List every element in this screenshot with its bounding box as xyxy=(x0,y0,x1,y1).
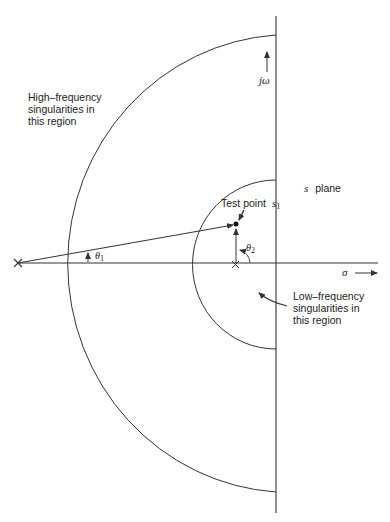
theta2-label: θ2 xyxy=(246,242,255,255)
s-symbol: s xyxy=(304,182,308,194)
low-frequency-pointer-arrow xyxy=(259,293,287,306)
vector-far-pole-to-test-point xyxy=(18,225,233,263)
high-frequency-label: High–frequency singularities in this reg… xyxy=(28,91,102,127)
test-point-dot xyxy=(234,222,239,227)
test-point-symbol: s1 xyxy=(272,197,280,209)
sigma-label: σ xyxy=(342,266,347,278)
low-frequency-line-2: singularities in xyxy=(293,302,364,314)
low-frequency-label: Low–frequency singularities in this regi… xyxy=(293,290,364,326)
high-frequency-line-1: High–frequency xyxy=(28,91,102,103)
plane-text: plane xyxy=(315,182,341,194)
high-frequency-line-3: this region xyxy=(28,115,102,127)
test-point-label: Test point s1 xyxy=(221,197,280,213)
high-frequency-line-2: singularities in xyxy=(28,103,102,115)
jw-label: jω xyxy=(259,74,270,86)
test-point-text: Test point xyxy=(221,197,266,209)
s-plane-diagram xyxy=(0,0,390,522)
low-frequency-line-1: Low–frequency xyxy=(293,290,364,302)
theta1-label: θ1 xyxy=(95,250,104,263)
s-plane-label: s plane xyxy=(304,182,341,194)
low-frequency-line-3: this region xyxy=(293,314,364,326)
